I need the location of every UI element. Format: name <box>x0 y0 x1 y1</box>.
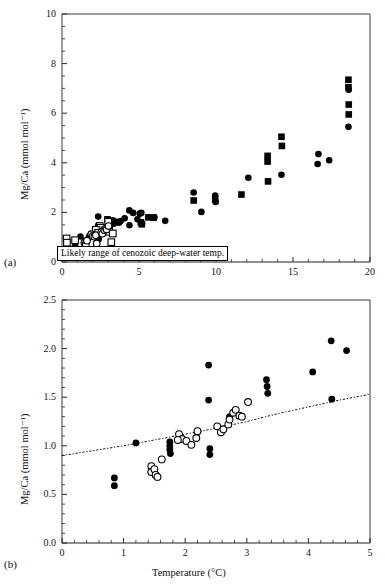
series-filled-square <box>104 76 352 229</box>
data-point <box>264 390 271 397</box>
data-point <box>174 437 181 444</box>
y-tick-label: 6 <box>22 107 56 118</box>
data-point <box>326 157 333 164</box>
data-point <box>193 435 200 442</box>
data-point <box>343 347 350 354</box>
panel-a-label: (a) <box>4 256 16 268</box>
data-point <box>238 191 245 198</box>
figure-root: (a) Mg/Ca (mmol mol⁻¹) Likely range of c… <box>0 0 385 588</box>
data-point <box>72 237 79 244</box>
data-point <box>278 171 285 178</box>
data-point <box>245 174 252 181</box>
data-point <box>130 210 137 217</box>
y-tick-label: 0.0 <box>22 537 56 548</box>
data-point <box>205 362 212 369</box>
data-point <box>238 413 245 420</box>
data-point <box>64 239 71 246</box>
data-point <box>194 428 201 435</box>
data-point <box>212 196 219 203</box>
data-point <box>126 222 133 229</box>
data-point <box>345 124 352 131</box>
x-tick-label: 4 <box>292 547 324 558</box>
data-point <box>245 399 252 406</box>
x-tick-label: 20 <box>354 266 385 277</box>
data-point <box>110 230 117 237</box>
panel-a-y-axis-title: Mg/Ca (mmol mol⁻¹) <box>18 109 30 200</box>
panel-b: (b) Mg/Ca (mmol mol⁻¹) Temperature (°C) <box>0 290 385 588</box>
y-tick-label: 10 <box>22 8 56 19</box>
data-point <box>278 133 285 140</box>
data-point <box>328 337 335 344</box>
x-tick-label: 15 <box>277 266 309 277</box>
y-tick-label: 2.5 <box>22 294 56 305</box>
data-point <box>205 397 212 404</box>
data-point <box>263 376 270 383</box>
data-point <box>150 214 157 221</box>
data-point <box>111 474 118 481</box>
data-point <box>108 239 115 246</box>
data-point <box>117 218 124 225</box>
y-tick-label: 4 <box>22 157 56 168</box>
x-tick-label: 3 <box>231 547 263 558</box>
data-point <box>198 209 205 216</box>
data-point <box>206 445 213 452</box>
data-point <box>190 189 197 196</box>
panel-b-label: (b) <box>4 558 17 570</box>
data-point <box>345 84 352 91</box>
data-point <box>190 197 197 204</box>
data-point <box>138 221 145 228</box>
x-tick-label: 5 <box>354 547 385 558</box>
data-point <box>345 76 352 83</box>
y-tick-label: 2 <box>22 206 56 217</box>
y-tick-label: 0.5 <box>22 488 56 499</box>
data-point <box>265 178 272 185</box>
x-tick-label: 2 <box>169 547 201 558</box>
plot-frame <box>62 300 370 543</box>
cenozoic-range-annotation: Likely range of cenozoic deep-water temp… <box>57 246 228 261</box>
data-point <box>264 158 271 165</box>
panel-a: (a) Mg/Ca (mmol mol⁻¹) Likely range of c… <box>0 0 385 290</box>
x-tick-label: 5 <box>123 266 155 277</box>
panel-b-plot <box>0 290 385 588</box>
y-tick-label: 2.0 <box>22 343 56 354</box>
data-point <box>226 416 233 423</box>
y-tick-label: 1.5 <box>22 391 56 402</box>
y-tick-label: 1.0 <box>22 440 56 451</box>
data-point <box>84 237 91 244</box>
data-point <box>105 223 112 230</box>
data-point <box>345 111 352 118</box>
series-open-circle <box>148 399 252 481</box>
data-point <box>188 441 195 448</box>
data-point <box>309 369 316 376</box>
y-tick-label: 8 <box>22 58 56 69</box>
data-point <box>264 153 271 160</box>
x-tick-label: 10 <box>200 266 232 277</box>
data-point <box>279 143 286 150</box>
x-tick-label: 0 <box>46 266 78 277</box>
data-point <box>162 218 169 225</box>
data-point <box>158 456 165 463</box>
data-point <box>138 210 145 217</box>
data-point <box>314 161 321 168</box>
y-tick-label: 0 <box>22 256 56 267</box>
data-point <box>95 213 102 220</box>
data-point <box>264 383 271 390</box>
data-point <box>133 439 140 446</box>
data-point <box>328 396 335 403</box>
data-point <box>206 451 213 458</box>
data-point <box>154 474 161 481</box>
x-tick-label: 0 <box>46 547 78 558</box>
x-tick-label: 1 <box>108 547 140 558</box>
data-point <box>345 101 352 108</box>
data-point <box>111 482 118 489</box>
panel-b-x-axis-title: Temperature (°C) <box>152 567 226 578</box>
data-point <box>167 450 174 457</box>
data-point <box>315 151 322 158</box>
